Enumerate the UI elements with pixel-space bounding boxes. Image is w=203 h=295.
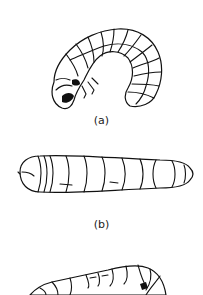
larva-a-illustration bbox=[0, 20, 203, 110]
panel-b-label: (b) bbox=[0, 218, 203, 231]
larva-a-body bbox=[52, 29, 162, 109]
larva-b-body bbox=[18, 155, 193, 192]
panel-a-label: (a) bbox=[0, 114, 203, 127]
larva-c-illustration bbox=[0, 258, 203, 295]
larva-b-illustration bbox=[0, 150, 203, 200]
larva-c-body bbox=[30, 265, 166, 295]
